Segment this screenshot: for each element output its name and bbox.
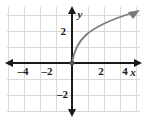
graph-canvas: –4 –2 2 4 2 –2 x y bbox=[0, 0, 148, 120]
coordinate-plane-figure: –4 –2 2 4 2 –2 x y bbox=[0, 0, 148, 120]
y-tick-label-2: 2 bbox=[61, 25, 67, 37]
figure-background bbox=[0, 0, 148, 120]
x-tick-label-neg2: –2 bbox=[41, 65, 54, 77]
x-tick-label-neg4: –4 bbox=[17, 65, 30, 77]
x-tick-label-2: 2 bbox=[98, 65, 104, 77]
x-axis-name-label: x bbox=[129, 66, 136, 78]
y-tick-label-neg2: –2 bbox=[56, 88, 69, 100]
curve-start-point-marker bbox=[70, 61, 75, 66]
x-tick-label-4: 4 bbox=[122, 65, 128, 77]
y-axis-name-label: y bbox=[76, 8, 83, 20]
